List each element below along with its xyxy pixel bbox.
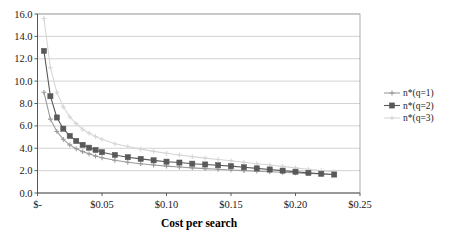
data-point-marker xyxy=(80,142,85,147)
legend-label-3: n*(q=3) xyxy=(403,113,434,124)
data-point-marker xyxy=(54,115,59,120)
y-axis-tick-label: 2.0 xyxy=(19,165,32,176)
data-point-marker xyxy=(293,169,298,174)
data-point-marker xyxy=(138,156,143,161)
x-axis-tick-label: $0.25 xyxy=(348,199,372,210)
y-axis: 0.02.04.06.08.010.012.014.016.0 xyxy=(14,9,37,199)
y-axis-tick-label: 16.0 xyxy=(14,9,32,20)
data-point-marker xyxy=(164,159,169,164)
data-point-marker xyxy=(87,145,92,150)
data-point-marker xyxy=(125,155,130,160)
chart-container: 0.02.04.06.08.010.012.014.016.0 $-$0.05$… xyxy=(0,0,451,252)
data-point-marker xyxy=(93,147,98,152)
data-point-marker xyxy=(190,161,195,166)
data-point-marker xyxy=(241,165,246,170)
x-axis-title: Cost per search xyxy=(161,217,238,230)
y-axis-tick-label: 14.0 xyxy=(14,31,32,42)
data-point-marker xyxy=(99,150,104,155)
x-axis-tick-label: $0.15 xyxy=(219,199,243,210)
legend-label-2: n*(q=2) xyxy=(403,101,434,112)
data-point-marker xyxy=(203,162,208,167)
x-axis-tick-label: $0.10 xyxy=(155,199,179,210)
data-point-marker xyxy=(41,48,46,53)
data-point-marker xyxy=(67,133,72,138)
data-point-marker xyxy=(74,138,79,143)
data-point-marker xyxy=(216,163,221,168)
legend-label-1: n*(q=1) xyxy=(403,88,434,99)
y-axis-tick-label: 4.0 xyxy=(19,143,32,154)
series-n-q-2- xyxy=(41,48,336,177)
data-point-marker xyxy=(267,167,272,172)
data-point-marker xyxy=(48,94,53,99)
data-point-marker xyxy=(112,152,117,157)
series-n-q-3- xyxy=(42,16,337,174)
y-axis-tick-label: 0.0 xyxy=(19,188,32,199)
y-axis-tick-label: 10.0 xyxy=(14,76,32,87)
x-axis-tick-label: $0.20 xyxy=(284,199,308,210)
data-point-marker xyxy=(319,171,324,176)
x-axis-tick-label: $0.05 xyxy=(90,199,114,210)
data-point-marker xyxy=(254,166,259,171)
data-point-marker xyxy=(228,164,233,169)
chart-legend: n*(q=1)n*(q=2)n*(q=3) xyxy=(384,88,434,124)
data-point-marker xyxy=(306,170,311,175)
data-point-marker xyxy=(177,160,182,165)
line-chart: 0.02.04.06.08.010.012.014.016.0 $-$0.05$… xyxy=(0,0,451,252)
data-series-group xyxy=(41,16,336,177)
data-point-marker xyxy=(280,168,285,173)
data-point-marker xyxy=(151,158,156,163)
x-axis-tick-label: $- xyxy=(33,199,42,210)
data-point-marker xyxy=(389,103,394,108)
y-axis-tick-label: 8.0 xyxy=(19,98,32,109)
y-axis-tick-label: 6.0 xyxy=(19,120,32,131)
data-point-marker xyxy=(61,126,66,131)
data-point-marker xyxy=(332,172,337,177)
gridlines xyxy=(38,14,361,171)
y-axis-tick-label: 12.0 xyxy=(14,53,32,64)
x-axis: $-$0.05$0.10$0.15$0.20$0.25 xyxy=(33,193,372,210)
